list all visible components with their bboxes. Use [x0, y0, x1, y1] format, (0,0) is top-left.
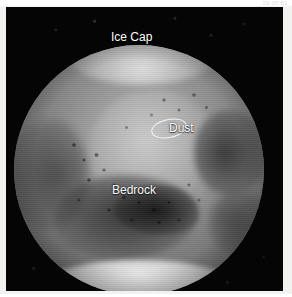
dark-albedo-right: [194, 110, 264, 195]
annotation-label-dust: Dust: [169, 122, 194, 135]
screenshot-root: 19:05:51 Ice Cap Dust Bedrock: [0, 0, 292, 297]
mars-photograph: Ice Cap Dust Bedrock: [6, 7, 283, 291]
photo-frame: Ice Cap Dust Bedrock: [0, 6, 292, 294]
dark-albedo-lower-right: [209, 190, 264, 255]
mars-planet-disc: [14, 45, 264, 291]
annotation-label-ice-cap: Ice Cap: [111, 31, 152, 44]
annotation-label-bedrock: Bedrock: [112, 184, 156, 197]
